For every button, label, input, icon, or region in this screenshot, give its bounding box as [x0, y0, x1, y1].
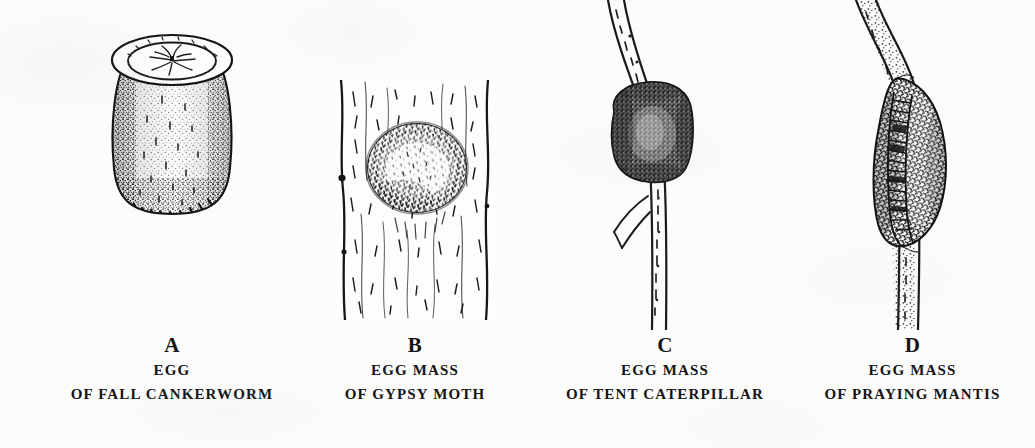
figure-label-letter: B	[295, 333, 535, 358]
figure-caption-line2: OF GYPSY MOTH	[295, 386, 535, 403]
figure-label-letter: A	[52, 333, 292, 358]
figure-d: D EGG MASS OF PRAYING MANTIS	[790, 0, 1035, 448]
figure-caption-line2: OF TENT CATERPILLAR	[540, 386, 790, 403]
figure-caption-line1: EGG MASS	[540, 362, 790, 379]
figure-a: A EGG OF FALL CANKERWORM	[52, 0, 292, 448]
figure-caption-line1: EGG	[52, 362, 292, 379]
praying-mantis-ootheca-illustration	[790, 0, 1035, 330]
figure-caption-line1: EGG MASS	[295, 362, 535, 379]
figure-c: C EGG MASS OF TENT CATERPILLAR	[540, 0, 790, 448]
figure-caption-line2: OF FALL CANKERWORM	[52, 386, 292, 403]
figure-caption-line2: OF PRAYING MANTIS	[790, 386, 1035, 403]
cankerworm-egg-illustration	[52, 0, 292, 330]
figure-label-letter: D	[790, 333, 1035, 358]
figure-b: B EGG MASS OF GYPSY MOTH	[295, 0, 535, 448]
gypsy-moth-egg-mass-illustration	[295, 0, 535, 330]
insect-egg-plate: A EGG OF FALL CANKERWORM	[0, 0, 1035, 448]
figure-caption-line1: EGG MASS	[790, 362, 1035, 379]
figure-label-letter: C	[540, 333, 790, 358]
tent-caterpillar-egg-mass-illustration	[540, 0, 790, 330]
